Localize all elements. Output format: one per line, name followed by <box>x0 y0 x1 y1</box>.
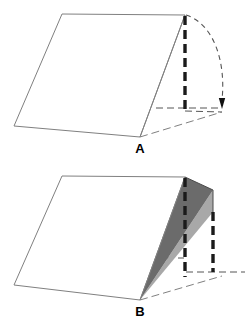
panel-a-rotation-arc <box>186 15 223 100</box>
figure-container: A B <box>0 0 249 328</box>
panel-a-label: A <box>135 141 145 156</box>
geometry-diagram: A B <box>0 0 249 328</box>
panel-a-base-far-edge <box>140 112 222 137</box>
panel-b-label: B <box>135 304 144 319</box>
panel-b-group: B <box>14 176 245 319</box>
panel-a-arrow-head <box>219 98 225 109</box>
panel-a-base-link <box>185 111 222 112</box>
panel-b-outline <box>14 176 185 300</box>
panel-a-outline <box>14 14 185 137</box>
panel-a-group: A <box>14 14 225 156</box>
